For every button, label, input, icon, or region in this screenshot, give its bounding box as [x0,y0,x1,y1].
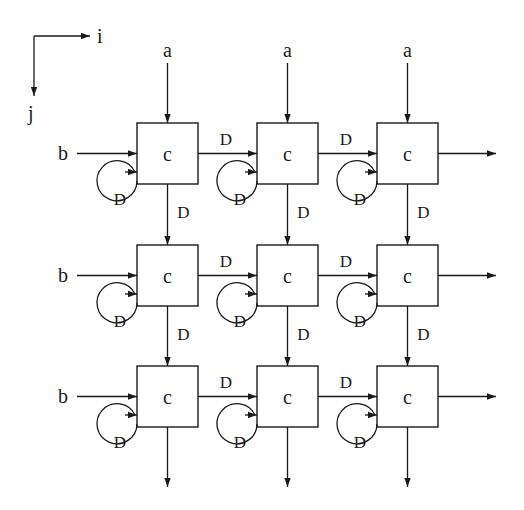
input-label-b: b [58,385,68,407]
self-loop-delay-label: D [234,190,246,209]
cell-label: c [163,143,172,165]
axis-indicator: i j [27,25,103,125]
input-label-a: a [403,39,412,61]
cell-grid: cDDDcDDDcDDcDDDcDDDcDDcDDcDDcDaaabbb [58,39,496,487]
input-label-b: b [58,142,68,164]
vertical-delay-label: D [417,203,429,222]
self-loop-delay-label: D [114,433,126,452]
vertical-delay-label: D [177,203,189,222]
vertical-delay-label: D [297,325,309,344]
input-label-a: a [163,39,172,61]
horizontal-delay-label: D [220,130,232,149]
cell-label: c [403,386,412,408]
horizontal-delay-label: D [340,130,352,149]
cell-label: c [283,143,292,165]
cell-label: c [283,386,292,408]
self-loop-delay-label: D [234,312,246,331]
vertical-delay-label: D [297,203,309,222]
vertical-delay-label: D [417,325,429,344]
cell-label: c [163,265,172,287]
input-label-b: b [58,264,68,286]
self-loop-delay-label: D [354,190,366,209]
cell-label: c [403,143,412,165]
cell-label: c [283,265,292,287]
input-label-a: a [283,39,292,61]
horizontal-delay-label: D [340,252,352,271]
systolic-array-diagram: i j cDDDcDDDcDDcDDDcDDDcDDcDDcDDcDaaabbb [0,0,524,510]
vertical-delay-label: D [177,325,189,344]
self-loop-delay-label: D [354,312,366,331]
horizontal-delay-label: D [220,252,232,271]
j-axis-label: j [27,102,34,125]
i-axis-label: i [97,25,103,47]
cell-label: c [163,386,172,408]
horizontal-delay-label: D [340,373,352,392]
self-loop-delay-label: D [354,433,366,452]
horizontal-delay-label: D [220,373,232,392]
self-loop-delay-label: D [234,433,246,452]
self-loop-delay-label: D [114,190,126,209]
self-loop-delay-label: D [114,312,126,331]
cell-label: c [403,265,412,287]
